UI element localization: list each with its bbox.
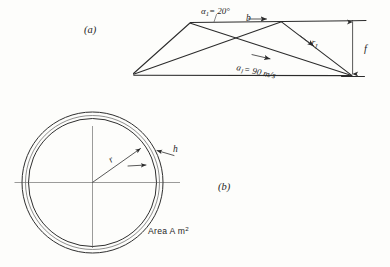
alpha-angle-label: α1= 20°	[201, 6, 230, 17]
engineering-figure: (a) α1= 20° b a1= 90 m/s r1 f	[0, 0, 390, 267]
blade-velocity-label: b	[246, 13, 251, 23]
figure-canvas: (a) α1= 20° b a1= 90 m/s r1 f	[0, 0, 390, 267]
dimension-f-label: f	[364, 43, 369, 54]
panel-a-velocity-diagram: (a) α1= 20° b a1= 90 m/s r1 f	[84, 6, 369, 82]
alpha-angle-tick	[214, 15, 217, 23]
absolute-velocity-label: a1= 90 m/s	[235, 62, 277, 82]
thickness-inner-arrow	[128, 165, 146, 166]
inlet-vector-upper-left	[134, 23, 191, 74]
panel-b-circular-section: r h Area A m2 (b)	[15, 112, 231, 253]
absolute-velocity-arrowhead	[252, 55, 270, 59]
radius-label: r	[107, 154, 116, 165]
thickness-label: h	[173, 144, 178, 154]
upper-reference-line	[191, 21, 353, 23]
relative-velocity-line-left	[191, 23, 352, 75]
relative-velocity-label: r1	[310, 37, 319, 49]
area-label: Area A m2	[148, 225, 189, 236]
panel-a-caption: (a)	[84, 24, 97, 36]
thickness-leader-line	[157, 151, 174, 156]
panel-b-caption: (b)	[218, 181, 231, 193]
